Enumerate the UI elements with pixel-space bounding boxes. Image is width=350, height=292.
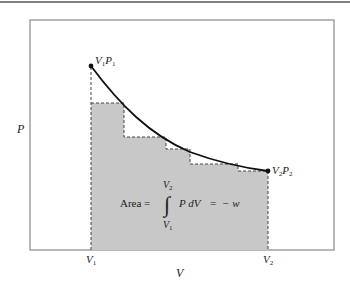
work-area-shading [91,103,268,250]
start-point-label: V1P1 [95,54,116,68]
formula-lhs: Area = [120,197,150,209]
formula-integrand: P dV [178,197,202,209]
start-point-dot [89,64,94,69]
end-point-label: V2P2 [272,164,293,178]
x-tick-v1: V1 [86,253,97,267]
formula-equals: = [210,197,216,209]
y-axis-label: P [16,122,25,136]
pv-diagram: V1P1 V2P2 P V V1 V2 Area = V2 ∫ V1 P dV … [0,0,350,292]
x-tick-v2: V2 [263,253,274,267]
end-point-dot [266,169,271,174]
formula-rhs: − w [222,197,240,209]
x-axis-label: V [176,266,185,280]
